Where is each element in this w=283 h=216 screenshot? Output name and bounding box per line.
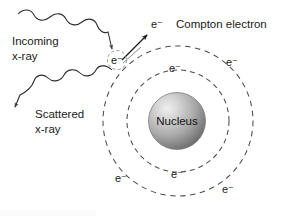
electron-label-inner-top: e⁻ bbox=[169, 62, 181, 74]
electron-label-outer-upper-right: e⁻ bbox=[226, 56, 238, 68]
compton-scattering-figure: Nucleus Incoming x-ray Scattered x-ray e… bbox=[0, 0, 283, 216]
scattered-xray-label-line2: x-ray bbox=[35, 123, 61, 135]
nucleus-label: Nucleus bbox=[156, 115, 198, 127]
scattered-xray-wave bbox=[15, 66, 112, 107]
scattered-xray-label-line1: Scattered bbox=[35, 108, 84, 120]
electron-label-inner-bottom: e⁻ bbox=[171, 168, 183, 180]
electron-label-compton-ejected: e⁻ bbox=[151, 18, 163, 30]
electron-label-outer-lower-right: e⁻ bbox=[222, 183, 234, 195]
diagram-canvas: Nucleus Incoming x-ray Scattered x-ray e… bbox=[0, 0, 283, 216]
compton-electron-label: Compton electron bbox=[176, 18, 267, 30]
incoming-xray-label-line1: Incoming bbox=[12, 35, 59, 47]
incoming-xray-label-line2: x-ray bbox=[12, 50, 38, 62]
footer-artifact bbox=[0, 210, 96, 216]
electron-label-interaction: e⁻ bbox=[111, 54, 123, 66]
electron-label-outer-lower-left: e⁻ bbox=[115, 172, 127, 184]
